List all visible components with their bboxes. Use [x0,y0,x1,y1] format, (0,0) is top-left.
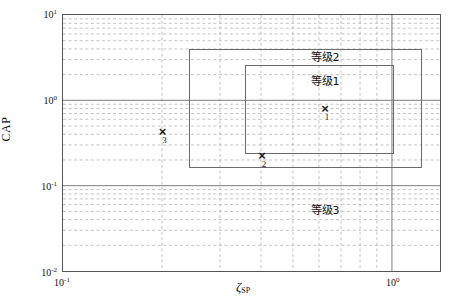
data-point-1-label: 1 [325,112,330,122]
data-point-3-label: 3 [162,135,167,145]
x-axis-title: ζSP [236,279,250,295]
ytick-label-10em1: 10-1 [41,180,57,192]
ytick-label-10e0: 100 [44,94,58,106]
data-point-2-label: 2 [262,159,267,169]
zone-label-grade3: 等级3 [311,201,340,217]
plot-area: 等级2 等级1 等级3 × 1 × 2 × 3 [62,14,441,272]
xtick-label-10e0: 100 [386,276,400,288]
zone-label-grade1: 等级1 [311,72,340,88]
zeta-subscript: SP [241,286,250,295]
y-axis-title: CAP [0,117,14,142]
zone-label-grade2: 等级2 [311,48,340,64]
xtick-label-10em1: 10-1 [54,276,70,288]
chart-figure: 等级2 等级1 等级3 × 1 × 2 × 3 101 100 10-1 10-… [0,0,454,308]
ytick-label-10e1: 101 [44,8,58,20]
